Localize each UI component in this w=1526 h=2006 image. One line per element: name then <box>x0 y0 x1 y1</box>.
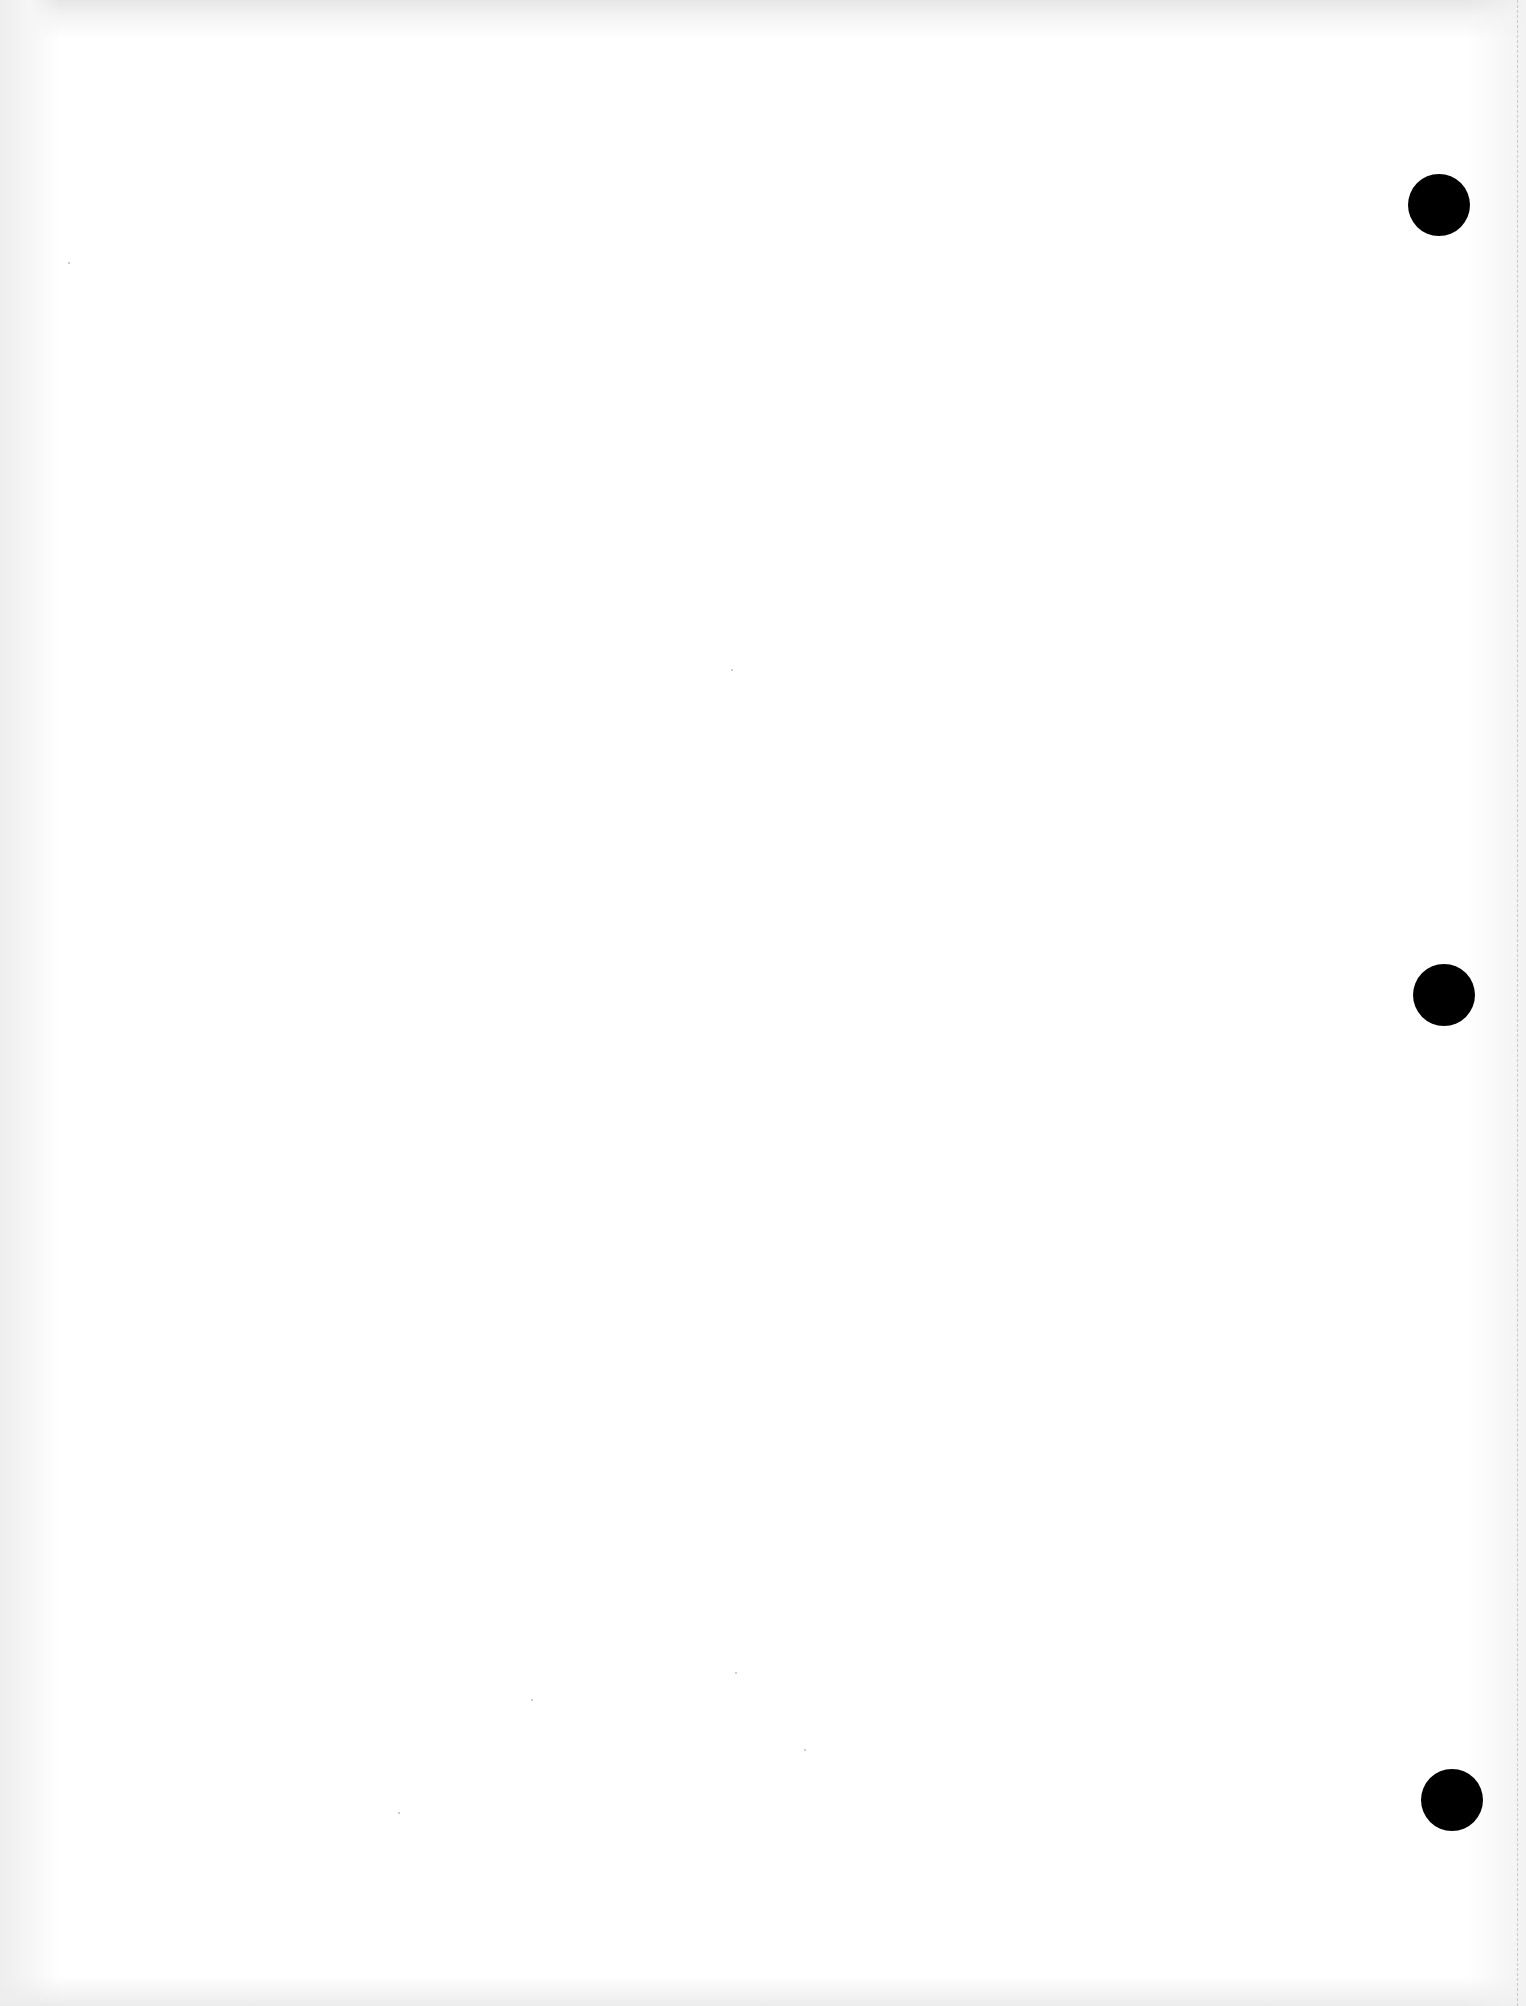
punch-hole-top <box>1408 174 1470 236</box>
scan-dust <box>398 1812 400 1814</box>
perforation-line <box>1517 0 1518 2006</box>
punch-hole-middle <box>1413 964 1475 1026</box>
punch-hole-bottom <box>1421 1769 1483 1831</box>
scan-dust <box>531 1699 533 1701</box>
scan-dust <box>804 1749 806 1751</box>
scan-dust <box>731 669 733 671</box>
scan-shade-top <box>0 0 1526 40</box>
scan-dust <box>68 262 70 264</box>
scan-dust <box>735 1672 737 1674</box>
scan-shade-left <box>0 0 60 2006</box>
scan-shade-bottom <box>0 1976 1526 2006</box>
blank-page <box>0 0 1526 2006</box>
